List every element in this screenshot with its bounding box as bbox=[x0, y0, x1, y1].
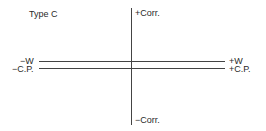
correlation-axis bbox=[131, 8, 132, 125]
diagram-title: Type C bbox=[29, 9, 58, 19]
positive-cp-label: +C.P. bbox=[229, 64, 251, 74]
positive-corr-label: +Corr. bbox=[135, 8, 160, 18]
w-axis-line bbox=[39, 61, 225, 62]
negative-corr-label: −Corr. bbox=[135, 115, 160, 125]
cp-axis-line bbox=[39, 68, 225, 69]
negative-cp-label: −C.P. bbox=[12, 64, 34, 74]
